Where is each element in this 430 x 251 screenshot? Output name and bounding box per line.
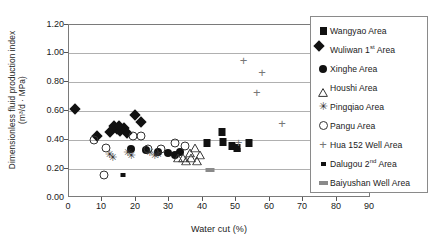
plus-icon: + xyxy=(253,89,261,97)
y-tick-label-0.20: 0.20 xyxy=(30,163,64,173)
open-circle-icon xyxy=(157,144,166,153)
open-triangle-icon xyxy=(316,83,330,92)
data-point xyxy=(245,139,252,147)
x-tick-mark-10 xyxy=(101,197,102,201)
x-tick-label-60: 60 xyxy=(257,201,281,211)
x-tick-mark-30 xyxy=(168,197,169,201)
open-circle-icon xyxy=(143,144,152,153)
data-point: + xyxy=(253,89,261,97)
data-point xyxy=(90,136,99,145)
filled-square-icon xyxy=(218,128,225,136)
plus-icon: + xyxy=(278,120,286,128)
x-tick-mark-60 xyxy=(269,197,270,201)
filled-diamond-icon xyxy=(69,103,80,114)
gray-bar-icon xyxy=(205,168,214,172)
data-point xyxy=(236,148,241,152)
y-tick-label-0.60: 0.60 xyxy=(30,105,64,115)
scatter-chart-figure: Dimensionless fluid production index (m³… xyxy=(0,0,430,251)
small-square-icon xyxy=(236,148,241,152)
x-tick-label-20: 20 xyxy=(123,201,147,211)
legend-item-label: Pangu Area xyxy=(330,121,375,131)
data-point xyxy=(137,132,146,141)
legend-item[interactable]: Baiyushan Well Area xyxy=(311,173,427,192)
data-point xyxy=(143,144,152,153)
legend-item[interactable]: Wangyao Area xyxy=(311,21,427,40)
filled-square-icon xyxy=(245,139,252,147)
open-circle-icon xyxy=(170,139,179,148)
data-point xyxy=(75,109,83,117)
data-point xyxy=(220,138,227,146)
x-tick-label-90: 90 xyxy=(357,201,381,211)
plus-icon: + xyxy=(235,139,243,147)
legend-item-label: Houshi Area xyxy=(330,83,377,93)
plus-icon: + xyxy=(316,141,330,149)
asterisk-icon: ✳ xyxy=(126,152,135,160)
data-point: + xyxy=(278,120,286,128)
data-point xyxy=(119,126,127,134)
x-tick-label-50: 50 xyxy=(223,201,247,211)
data-point xyxy=(101,143,110,152)
x-tick-label-30: 30 xyxy=(156,201,180,211)
x-tick-label-10: 10 xyxy=(89,201,113,211)
legend-item[interactable]: Wuliwan 1st Area xyxy=(311,40,427,59)
data-point: + xyxy=(235,139,243,147)
data-point xyxy=(170,139,179,148)
data-point xyxy=(100,170,109,179)
small-square-icon xyxy=(120,173,125,177)
legend-item-label: Pingqiao Area xyxy=(330,102,384,112)
legend-item[interactable]: Pangu Area xyxy=(311,116,427,135)
y-axis-title-line2: (m³/d · MPa) xyxy=(17,31,27,169)
filled-circle-icon xyxy=(316,65,330,73)
y-axis-title-line1: Dimensionless fluid production index xyxy=(7,31,17,169)
legend-item-label: Baiyushan Well Area xyxy=(330,178,410,188)
x-tick-label-40: 40 xyxy=(190,201,214,211)
plus-icon: + xyxy=(258,69,266,77)
x-tick-mark-20 xyxy=(135,197,136,201)
gray-bar-icon xyxy=(316,181,330,185)
open-circle-icon xyxy=(90,136,99,145)
small-square-icon xyxy=(316,162,330,166)
data-point: + xyxy=(240,57,248,65)
data-point xyxy=(195,146,205,155)
y-tick-label-0.40: 0.40 xyxy=(30,134,64,144)
filled-diamond-icon xyxy=(316,46,330,54)
data-point: ✳ xyxy=(108,154,117,162)
legend-item-label: Wangyao Area xyxy=(330,26,387,36)
data-point xyxy=(157,144,166,153)
filled-square-icon xyxy=(220,138,227,146)
open-circle-icon xyxy=(101,143,110,152)
y-tick-label-1.00: 1.00 xyxy=(30,47,64,57)
legend-item[interactable]: +Hua 152 Well Area xyxy=(311,135,427,154)
x-tick-mark-40 xyxy=(202,197,203,201)
x-axis-title: Water cut (%) xyxy=(68,224,370,234)
asterisk-icon: ✳ xyxy=(108,154,117,162)
legend-item[interactable]: ✳Pingqiao Area xyxy=(311,97,427,116)
data-point xyxy=(141,122,149,130)
y-axis-title: Dimensionless fluid production index (m³… xyxy=(2,0,32,200)
data-point xyxy=(120,173,125,177)
open-triangle-icon xyxy=(195,146,205,155)
legend-item-label: Dalugou 2nd Area xyxy=(330,158,397,169)
data-point xyxy=(218,128,225,136)
legend: Wangyao AreaWuliwan 1st AreaXinghe AreaH… xyxy=(310,16,428,193)
open-circle-icon xyxy=(137,132,146,141)
open-circle-icon xyxy=(316,121,330,130)
legend-item-label: Wuliwan 1st Area xyxy=(330,44,395,55)
legend-item[interactable]: Xinghe Area xyxy=(311,59,427,78)
y-tick-label-1.20: 1.20 xyxy=(30,19,64,29)
x-tick-label-0: 0 xyxy=(56,201,80,211)
open-circle-icon xyxy=(180,142,189,151)
data-point xyxy=(180,142,189,151)
asterisk-icon: ✳ xyxy=(316,103,330,111)
x-tick-label-80: 80 xyxy=(324,201,348,211)
x-tick-mark-70 xyxy=(302,197,303,201)
x-tick-mark-50 xyxy=(235,197,236,201)
legend-item[interactable]: Houshi Area xyxy=(311,78,427,97)
legend-item[interactable]: Dalugou 2nd Area xyxy=(311,154,427,173)
x-tick-mark-80 xyxy=(336,197,337,201)
data-point: + xyxy=(258,69,266,77)
x-tick-label-70: 70 xyxy=(290,201,314,211)
legend-item-label: Xinghe Area xyxy=(330,64,377,74)
plus-icon: + xyxy=(240,57,248,65)
open-circle-icon xyxy=(100,170,109,179)
